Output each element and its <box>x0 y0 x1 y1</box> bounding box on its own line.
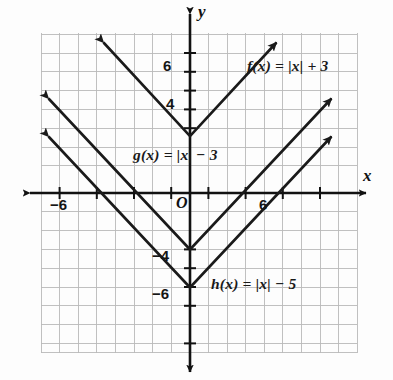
x-axis-label: x <box>363 166 372 186</box>
x-tick-label-6: 6 <box>259 196 267 213</box>
y-axis-label: y <box>198 2 206 22</box>
equation-label-h: h(x) = |x| − 5 <box>211 275 297 293</box>
y-tick-label-negative-6: −6 <box>152 285 169 302</box>
graph-figure: y x O 6 4 −4 −6 −6 6 f(x) = |x| + 3 g(x)… <box>0 0 393 380</box>
origin-label: O <box>176 194 188 212</box>
coordinate-plane-svg <box>0 0 393 380</box>
y-tick-label-6: 6 <box>163 57 171 74</box>
equation-label-g: g(x) = |x| − 3 <box>133 146 218 164</box>
y-tick-label-negative-4: −4 <box>152 247 169 264</box>
y-tick-label-4: 4 <box>166 95 174 112</box>
equation-label-f: f(x) = |x| + 3 <box>247 57 329 75</box>
x-tick-label-negative-6: −6 <box>50 196 67 213</box>
